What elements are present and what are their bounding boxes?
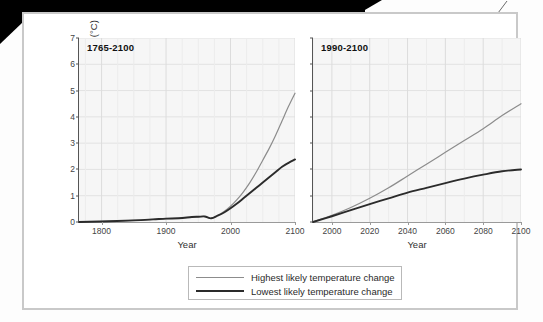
y-tick-mark (310, 222, 313, 223)
y-tick-mark (310, 116, 313, 117)
chart-legend: Highest likely temperature change Lowest… (188, 266, 402, 300)
y-tick-label: 2 (61, 164, 75, 174)
x-tick-label: 1800 (92, 226, 111, 236)
x-tick-mark (295, 222, 296, 225)
y-tick-mark (310, 169, 313, 170)
y-tick-mark (310, 64, 313, 65)
y-tick-mark (76, 38, 79, 39)
panel-title-left: 1765-2100 (87, 42, 134, 53)
x-tick-label: 2000 (322, 226, 341, 236)
legend-item-high: Highest likely temperature change (189, 270, 401, 284)
y-tick-label: 4 (61, 112, 75, 122)
plot-area-right: 1990-2100 200020202040206020802100 Year (312, 38, 521, 223)
plot-area-left: 1765-2100 01234567 1800190020002100 Year (78, 38, 295, 223)
data-curves-right (313, 38, 521, 222)
legend-label-low: Lowest likely temperature change (251, 286, 393, 297)
y-tick-mark (76, 169, 79, 170)
x-axis-label-left: Year (79, 239, 295, 250)
x-tick-label: 1900 (157, 226, 176, 236)
y-tick-mark (310, 38, 313, 39)
panel-title-right: 1990-2100 (321, 42, 368, 53)
y-tick-mark (310, 143, 313, 144)
x-tick-label: 2100 (512, 226, 531, 236)
x-tick-mark (408, 222, 409, 225)
x-tick-label: 2020 (360, 226, 379, 236)
x-axis-label-right: Year (313, 239, 521, 250)
x-tick-label: 2100 (286, 226, 305, 236)
y-tick-mark (76, 195, 79, 196)
x-tick-mark (445, 222, 446, 225)
legend-line-swatch-low (196, 290, 244, 292)
x-tick-mark (231, 222, 232, 225)
x-tick-mark (102, 222, 103, 225)
y-tick-mark (76, 116, 79, 117)
legend-label-high: Highest likely temperature change (251, 272, 395, 283)
x-tick-mark (521, 222, 522, 225)
data-curves-left (79, 38, 295, 222)
y-tick-mark (310, 195, 313, 196)
x-tick-mark (370, 222, 371, 225)
y-tick-mark (76, 222, 79, 223)
legend-item-low: Lowest likely temperature change (189, 284, 401, 298)
figure-root: Temperature change (°C) 1765-2100 012345… (0, 0, 543, 322)
legend-line-swatch-high (196, 277, 244, 278)
y-tick-mark (76, 64, 79, 65)
y-tick-label: 7 (61, 33, 75, 43)
y-tick-label: 6 (61, 59, 75, 69)
x-tick-mark (332, 222, 333, 225)
chart-figure-frame: Temperature change (°C) 1765-2100 012345… (22, 12, 518, 310)
x-tick-label: 2080 (474, 226, 493, 236)
y-tick-mark (310, 90, 313, 91)
x-tick-mark (483, 222, 484, 225)
x-tick-label: 2040 (398, 226, 417, 236)
y-tick-label: 5 (61, 86, 75, 96)
y-tick-mark (76, 143, 79, 144)
x-tick-label: 2000 (221, 226, 240, 236)
y-tick-label: 0 (61, 217, 75, 227)
x-tick-label: 2060 (436, 226, 455, 236)
y-tick-label: 3 (61, 138, 75, 148)
y-tick-mark (76, 90, 79, 91)
y-tick-label: 1 (61, 191, 75, 201)
x-tick-mark (166, 222, 167, 225)
